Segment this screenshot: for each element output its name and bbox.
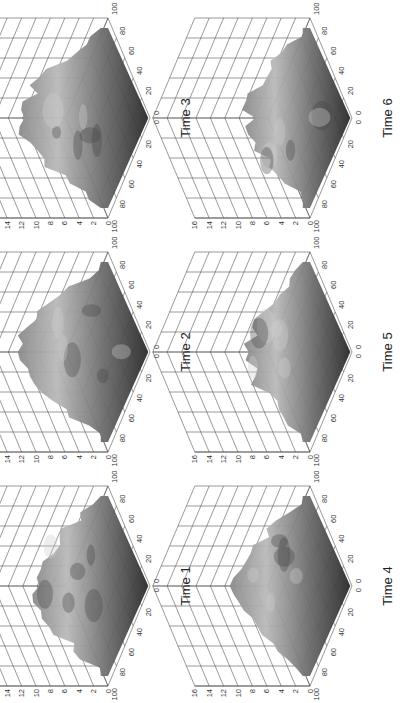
- svg-text:60: 60: [127, 281, 136, 289]
- svg-text:0: 0: [354, 120, 363, 124]
- svg-text:100: 100: [110, 220, 119, 233]
- svg-text:60: 60: [127, 47, 136, 55]
- svg-text:60: 60: [127, 515, 136, 523]
- svg-text:0: 0: [152, 588, 161, 592]
- svg-text:2: 2: [291, 221, 300, 225]
- svg-text:4: 4: [75, 455, 84, 459]
- svg-text:100: 100: [312, 236, 321, 249]
- svg-text:6: 6: [262, 221, 271, 225]
- svg-text:12: 12: [219, 221, 228, 229]
- surface-plot-time-4: 0246810121416100806040200020406080100 Ti…: [202, 469, 402, 703]
- svg-text:6: 6: [60, 455, 69, 459]
- plot-canvas: 0246810121416100806040200020406080100: [202, 1, 382, 235]
- svg-text:100: 100: [312, 454, 321, 467]
- svg-text:100: 100: [312, 220, 321, 233]
- svg-text:40: 40: [337, 301, 346, 309]
- svg-text:20: 20: [144, 374, 153, 382]
- svg-text:0: 0: [354, 588, 363, 592]
- svg-text:16: 16: [190, 221, 199, 229]
- svg-text:10: 10: [32, 455, 41, 463]
- svg-text:0: 0: [354, 354, 363, 358]
- svg-text:2: 2: [291, 689, 300, 693]
- svg-text:60: 60: [127, 648, 136, 656]
- svg-text:80: 80: [320, 261, 329, 269]
- svg-text:60: 60: [127, 414, 136, 422]
- svg-text:40: 40: [135, 628, 144, 636]
- svg-text:0: 0: [152, 345, 161, 349]
- svg-text:100: 100: [312, 688, 321, 701]
- svg-text:8: 8: [46, 455, 55, 459]
- svg-text:100: 100: [312, 470, 321, 483]
- svg-text:100: 100: [110, 688, 119, 701]
- svg-text:60: 60: [127, 180, 136, 188]
- svg-text:100: 100: [110, 236, 119, 249]
- svg-text:10: 10: [234, 689, 243, 697]
- svg-text:10: 10: [234, 455, 243, 463]
- svg-text:80: 80: [320, 495, 329, 503]
- svg-text:0: 0: [152, 111, 161, 115]
- svg-text:60: 60: [329, 515, 338, 523]
- svg-text:0: 0: [354, 345, 363, 349]
- svg-text:0: 0: [152, 354, 161, 358]
- svg-text:14: 14: [3, 221, 12, 229]
- svg-text:40: 40: [135, 67, 144, 75]
- svg-text:40: 40: [337, 160, 346, 168]
- panel-label: Time 4: [380, 469, 395, 703]
- svg-text:80: 80: [320, 434, 329, 442]
- svg-text:80: 80: [118, 495, 127, 503]
- svg-text:40: 40: [337, 67, 346, 75]
- panel-label: Time 6: [380, 1, 395, 235]
- svg-text:16: 16: [190, 689, 199, 697]
- svg-text:100: 100: [312, 2, 321, 15]
- svg-text:100: 100: [110, 454, 119, 467]
- svg-text:6: 6: [60, 689, 69, 693]
- svg-text:10: 10: [32, 221, 41, 229]
- svg-text:40: 40: [337, 535, 346, 543]
- svg-text:2: 2: [89, 455, 98, 459]
- svg-text:4: 4: [277, 689, 286, 693]
- svg-text:12: 12: [219, 455, 228, 463]
- svg-text:80: 80: [320, 668, 329, 676]
- svg-text:20: 20: [346, 608, 355, 616]
- svg-text:14: 14: [205, 221, 214, 229]
- svg-text:20: 20: [346, 555, 355, 563]
- svg-text:14: 14: [3, 689, 12, 697]
- svg-text:0: 0: [354, 579, 363, 583]
- svg-text:8: 8: [248, 221, 257, 225]
- svg-text:6: 6: [262, 455, 271, 459]
- svg-text:100: 100: [110, 470, 119, 483]
- svg-text:20: 20: [144, 87, 153, 95]
- svg-text:2: 2: [89, 221, 98, 225]
- svg-text:20: 20: [346, 321, 355, 329]
- svg-text:20: 20: [144, 555, 153, 563]
- plot-canvas: 0246810121416100806040200020406080100: [202, 469, 382, 703]
- svg-text:12: 12: [219, 689, 228, 697]
- svg-text:20: 20: [346, 140, 355, 148]
- svg-text:20: 20: [144, 321, 153, 329]
- svg-text:8: 8: [248, 689, 257, 693]
- svg-text:20: 20: [346, 374, 355, 382]
- svg-text:40: 40: [135, 394, 144, 402]
- svg-text:10: 10: [32, 689, 41, 697]
- surface-plot-time-5: 0246810121416100806040200020406080100 Ti…: [202, 235, 402, 469]
- svg-text:40: 40: [337, 628, 346, 636]
- svg-text:6: 6: [262, 689, 271, 693]
- figure: 0246810121416100806040200020406080100 Ti…: [0, 0, 403, 703]
- surface-plot-time-6: 0246810121416100806040200020406080100 Ti…: [202, 1, 402, 235]
- svg-text:40: 40: [135, 160, 144, 168]
- svg-text:80: 80: [320, 200, 329, 208]
- svg-text:2: 2: [89, 689, 98, 693]
- svg-text:80: 80: [118, 261, 127, 269]
- svg-text:0: 0: [152, 120, 161, 124]
- svg-text:14: 14: [3, 455, 12, 463]
- svg-text:4: 4: [75, 221, 84, 225]
- svg-text:60: 60: [329, 648, 338, 656]
- panel-label: Time 5: [380, 235, 395, 469]
- svg-text:2: 2: [291, 455, 300, 459]
- plot-canvas: 0246810121416100806040200020406080100: [202, 235, 382, 469]
- svg-text:20: 20: [346, 87, 355, 95]
- svg-text:12: 12: [17, 689, 26, 697]
- svg-text:16: 16: [190, 455, 199, 463]
- svg-text:10: 10: [234, 221, 243, 229]
- svg-text:40: 40: [135, 301, 144, 309]
